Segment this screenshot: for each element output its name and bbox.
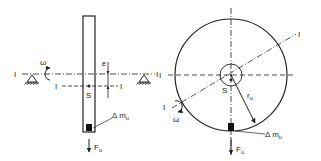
center-of-mass-label: S	[222, 86, 227, 95]
front-view: I I I ω S ru Δ mu Fu	[159, 8, 300, 155]
principal-axis-diagonal	[172, 34, 296, 108]
axis-label-left: I	[14, 70, 16, 79]
center-of-mass-label: S	[86, 91, 91, 100]
offset-axis-label-left: I	[55, 82, 57, 91]
support-left-icon	[24, 75, 39, 85]
mass-leader-line	[93, 118, 112, 128]
force-label: Fu	[94, 143, 102, 153]
rotation-arrow-icon	[175, 101, 182, 112]
mass-leader-line	[235, 131, 265, 134]
axis-label-lower: I	[163, 103, 165, 112]
omega-label: ω	[173, 115, 179, 124]
radius-label: ru	[247, 91, 253, 101]
center-of-mass-point	[230, 79, 233, 82]
horizontal-axis-label: I	[159, 71, 161, 80]
center-of-mass-point	[88, 85, 91, 88]
unbalance-mass	[228, 123, 234, 131]
unbalance-diagram: ω I I I I S e Δ mu Fu I I I	[0, 0, 321, 161]
axis-label-upper: I	[298, 30, 300, 39]
mass-label: Δ mu	[112, 111, 129, 121]
unbalance-mass	[86, 124, 92, 131]
eccentricity-label: e	[102, 60, 106, 67]
offset-axis-label-right: I	[120, 82, 122, 91]
omega-label: ω	[40, 58, 46, 67]
side-view: ω I I I I S e Δ mu Fu	[14, 16, 158, 153]
mass-label: Δ mu	[265, 130, 282, 140]
axis-label-right: I	[156, 70, 158, 79]
support-right-icon	[136, 75, 151, 85]
force-label: Fu	[236, 145, 244, 155]
